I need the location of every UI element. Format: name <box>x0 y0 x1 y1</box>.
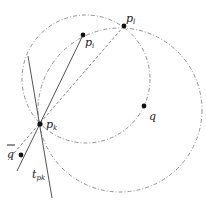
label-q-bar: q <box>7 148 14 161</box>
label-pi: pi <box>85 36 94 50</box>
point-q-bar <box>19 153 24 158</box>
point-pk <box>37 121 42 126</box>
point-q <box>142 104 147 109</box>
large-dashed-circle <box>38 28 202 192</box>
label-pl: pl <box>126 12 135 26</box>
label-q: q <box>149 110 156 123</box>
label-tpk: tpk <box>32 168 45 182</box>
geometry-diagram: pl pi pk q q tpk <box>0 0 206 206</box>
label-pk: pk <box>46 118 57 132</box>
